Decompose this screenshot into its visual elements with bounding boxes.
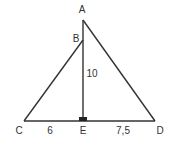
label-C: C xyxy=(15,125,22,136)
label-D: D xyxy=(156,125,163,136)
label-A: A xyxy=(79,4,86,15)
right-angle-marker xyxy=(79,117,87,121)
geometry-diagram: A B C E D 6 7,5 10 xyxy=(0,0,186,146)
label-B: B xyxy=(73,33,80,44)
label-E: E xyxy=(80,125,87,136)
measure-ED: 7,5 xyxy=(116,125,130,136)
measure-CE: 6 xyxy=(47,125,53,136)
measure-BE: 10 xyxy=(86,68,98,79)
segment-CB xyxy=(24,40,83,121)
